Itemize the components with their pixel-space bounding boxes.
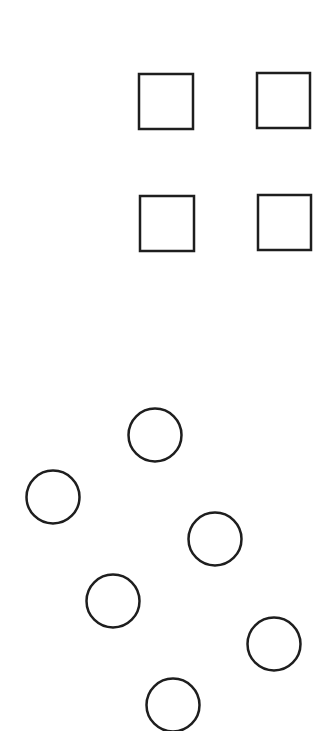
circle-2 <box>27 471 80 524</box>
circle-6 <box>147 679 200 731</box>
square-1 <box>139 74 193 129</box>
circle-5 <box>248 618 301 671</box>
circle-4 <box>87 575 140 628</box>
circle-1 <box>129 409 182 462</box>
circle-3 <box>189 513 242 566</box>
square-3 <box>140 196 194 251</box>
shapes-canvas <box>0 0 318 731</box>
square-4 <box>258 195 311 250</box>
square-2 <box>257 73 310 128</box>
